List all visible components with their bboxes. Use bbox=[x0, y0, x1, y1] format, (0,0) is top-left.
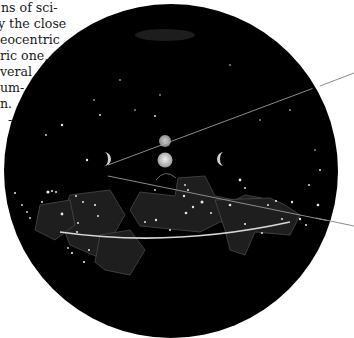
constellation-boundaries bbox=[35, 176, 300, 275]
pointer-line-upper bbox=[108, 73, 354, 165]
arc-marker bbox=[156, 173, 176, 180]
pointer-line-lower-ext bbox=[316, 218, 354, 226]
planet-crescent-right bbox=[217, 152, 224, 166]
milky-way-patch bbox=[135, 29, 195, 41]
planet-upper bbox=[159, 135, 171, 147]
planet-center bbox=[158, 153, 173, 168]
pointer-line-upper-ext bbox=[320, 73, 354, 86]
